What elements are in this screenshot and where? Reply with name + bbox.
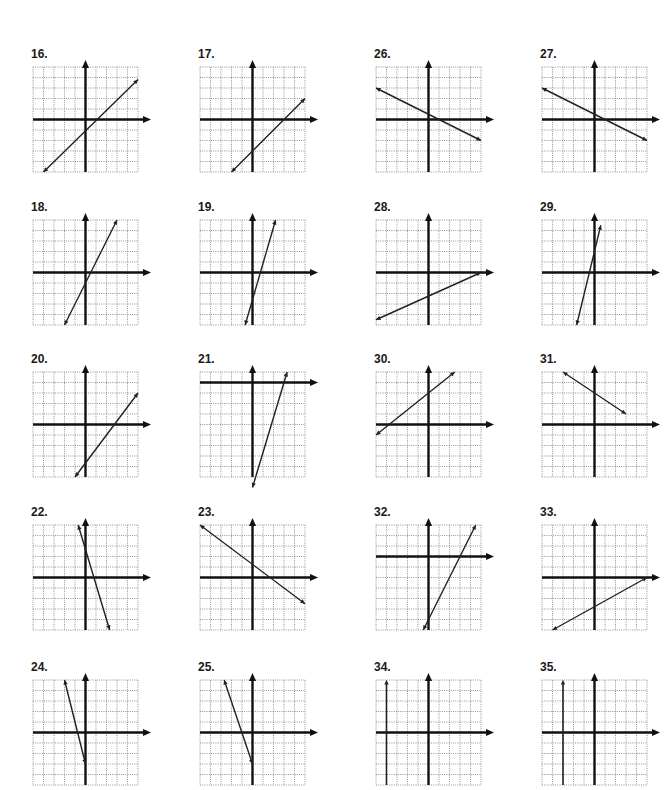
graph-problem-33: 33. <box>540 505 664 645</box>
arrowhead-icon <box>224 680 228 685</box>
x-axis-arrow-icon <box>310 379 318 386</box>
problem-number: 17. <box>198 47 215 61</box>
graph-problem-25: 25. <box>198 660 338 790</box>
coordinate-grid <box>198 519 319 634</box>
graph-problem-24: 24. <box>31 660 171 790</box>
graph-problem-27: 27. <box>540 47 664 187</box>
y-axis-arrow-icon <box>82 518 89 526</box>
problem-number: 28. <box>374 200 391 214</box>
x-axis-arrow-icon <box>143 116 151 123</box>
y-axis-arrow-icon <box>591 518 598 526</box>
graph-problem-18: 18. <box>31 200 171 340</box>
plotted-line <box>577 225 601 325</box>
coordinate-grid <box>374 674 495 789</box>
y-axis-arrow-icon <box>425 518 432 526</box>
problem-number: 18. <box>31 200 48 214</box>
problem-number: 21. <box>198 352 215 366</box>
x-axis-arrow-icon <box>652 574 660 581</box>
graph-problem-30: 30. <box>374 352 514 492</box>
graph-problem-29: 29. <box>540 200 664 340</box>
coordinate-grid <box>374 366 495 481</box>
graph-problem-35: 35. <box>540 660 664 790</box>
coordinate-grid <box>198 674 319 789</box>
problem-number: 24. <box>31 660 48 674</box>
coordinate-grid <box>540 214 661 329</box>
coordinate-grid <box>374 61 495 176</box>
y-axis-arrow-icon <box>591 213 598 221</box>
x-axis-arrow-icon <box>143 421 151 428</box>
x-axis-arrow-icon <box>652 269 660 276</box>
coordinate-grid <box>31 519 152 634</box>
graph-problem-34: 34. <box>374 660 514 790</box>
coordinate-grid <box>198 61 319 176</box>
graph-problem-28: 28. <box>374 200 514 340</box>
graph-problem-31: 31. <box>540 352 664 492</box>
x-axis-arrow-icon <box>652 116 660 123</box>
y-axis-arrow-icon <box>249 673 256 681</box>
x-axis-arrow-icon <box>310 729 318 736</box>
coordinate-grid <box>540 674 661 789</box>
coordinate-grid <box>31 674 152 789</box>
plotted-line <box>232 99 306 173</box>
x-axis-arrow-icon <box>143 574 151 581</box>
x-axis-arrow-icon <box>652 421 660 428</box>
plotted-line <box>253 372 288 488</box>
x-axis-arrow-icon <box>486 729 494 736</box>
problem-number: 16. <box>31 47 48 61</box>
problem-number: 19. <box>198 200 215 214</box>
coordinate-grid <box>198 214 319 329</box>
problem-number: 22. <box>31 505 48 519</box>
y-axis-arrow-icon <box>425 673 432 681</box>
coordinate-grid <box>31 214 152 329</box>
arrowhead-icon <box>561 680 565 685</box>
graph-problem-19: 19. <box>198 200 338 340</box>
x-axis-arrow-icon <box>486 421 494 428</box>
y-axis-arrow-icon <box>82 673 89 681</box>
y-axis-arrow-icon <box>82 213 89 221</box>
x-axis-arrow-icon <box>310 269 318 276</box>
problem-number: 26. <box>374 47 391 61</box>
problem-number: 32. <box>374 505 391 519</box>
y-axis-arrow-icon <box>425 365 432 373</box>
coordinate-grid <box>540 61 661 176</box>
graph-problem-22: 22. <box>31 505 171 645</box>
graph-problem-20: 20. <box>31 352 171 492</box>
y-axis-arrow-icon <box>249 365 256 373</box>
problem-number: 27. <box>540 47 557 61</box>
coordinate-grid <box>374 214 495 329</box>
x-axis-arrow-icon <box>143 269 151 276</box>
problem-number: 25. <box>198 660 215 674</box>
y-axis-arrow-icon <box>591 365 598 373</box>
plotted-line <box>44 80 139 172</box>
y-axis-arrow-icon <box>82 60 89 68</box>
plotted-line <box>553 578 648 631</box>
graph-problem-21: 21. <box>198 352 338 492</box>
y-axis-arrow-icon <box>425 213 432 221</box>
coordinate-grid <box>31 61 152 176</box>
y-axis-arrow-icon <box>591 60 598 68</box>
x-axis-arrow-icon <box>652 729 660 736</box>
arrowhead-icon <box>249 759 253 764</box>
problem-number: 31. <box>540 352 557 366</box>
graph-problem-17: 17. <box>198 47 338 187</box>
graph-problem-23: 23. <box>198 505 338 645</box>
coordinate-grid <box>31 366 152 481</box>
problem-number: 34. <box>374 660 391 674</box>
problem-number: 23. <box>198 505 215 519</box>
graph-problem-26: 26. <box>374 47 514 187</box>
plotted-line <box>224 680 252 764</box>
x-axis-arrow-icon <box>486 116 494 123</box>
problem-number: 30. <box>374 352 391 366</box>
y-axis-arrow-icon <box>249 213 256 221</box>
coordinate-grid <box>374 519 495 634</box>
problem-number: 20. <box>31 352 48 366</box>
y-axis-arrow-icon <box>425 60 432 68</box>
x-axis-arrow-icon <box>310 574 318 581</box>
coordinate-grid <box>540 519 661 634</box>
x-axis-arrow-icon <box>486 553 494 560</box>
problem-number: 35. <box>540 660 557 674</box>
y-axis-arrow-icon <box>249 518 256 526</box>
problem-number: 33. <box>540 505 557 519</box>
y-axis-arrow-icon <box>249 60 256 68</box>
graph-problem-32: 32. <box>374 505 514 645</box>
